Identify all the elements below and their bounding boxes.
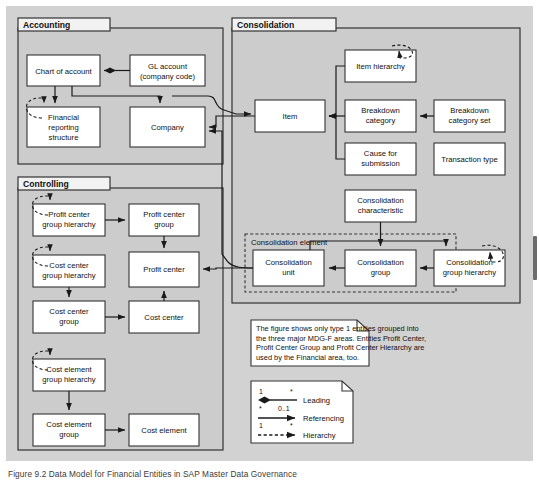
entity-item-label: Item (283, 112, 298, 121)
entity-cost-element-group: Cost element group (33, 414, 105, 446)
entity-consolidation-group-hierarchy: Consolidation group hierarchy (434, 250, 505, 286)
entity-cch-line2: characteristic (358, 206, 403, 215)
entity-ceg-line2: group (59, 430, 79, 439)
entity-profit-center-group: Profit center group (129, 204, 199, 236)
legend-referencing-label: Referencing (303, 414, 344, 423)
entity-bdc-line2: category (366, 116, 396, 125)
group-accounting-label: Accounting (23, 20, 70, 30)
entity-pcg-line2: group (154, 220, 174, 229)
entity-gl-account: GL account (company code) (130, 55, 205, 86)
entity-frs-label-line3: structure (49, 133, 79, 142)
entity-transaction-type: Transaction type (434, 143, 505, 175)
figure-caption: Figure 9.2 Data Model for Financial Enti… (8, 469, 438, 479)
entity-cfs-line1: Cause for (364, 149, 398, 158)
entity-cost-element: Cost element (129, 414, 199, 446)
entity-profit-center-group-hierarchy: Profit center group hierarchy (33, 204, 105, 236)
note-line-2: the three major MDG-F areas. Entities Pr… (256, 334, 426, 343)
entity-cg-line1: Consolidation (357, 258, 404, 267)
entity-ce-line1: Cost element (141, 426, 187, 435)
figure-canvas: Accounting Chart of account GL account (… (0, 0, 539, 480)
group-consolidation-label: Consolidation (237, 20, 294, 30)
entity-bdcs-line1: Breakdown (450, 106, 488, 115)
legend-referencing-left-cardinality: * (259, 405, 262, 412)
entity-bdc-line1: Breakdown (361, 106, 399, 115)
legend-hierarchy-right-cardinality: * (290, 422, 293, 429)
entity-breakdown-category-set: Breakdown category set (434, 100, 505, 132)
legend-leading-label: Leading (303, 396, 330, 405)
entity-cc-line1: Cost center (144, 313, 184, 322)
legend-leading-left-cardinality: 1 (259, 388, 263, 395)
legend-leading-right-cardinality: * (290, 388, 293, 395)
entity-cegh-line1: Cost element (46, 365, 92, 374)
note-line-3: Profit Center Group and Profit Center Hi… (256, 343, 424, 352)
entity-profit-center: Profit center (129, 252, 199, 287)
entity-consolidation-group: Consolidation group (345, 250, 416, 286)
entity-pc-line1: Profit center (143, 265, 185, 274)
entity-ccg-line1: Cost center (49, 307, 89, 316)
legend-hierarchy-left-cardinality: 1 (259, 422, 263, 429)
entity-item-hierarchy-label: Item hierarchy (356, 62, 405, 71)
subgroup-consolidation-element-label: Consolidation element (251, 238, 328, 247)
entity-bdcs-line2: category set (449, 116, 492, 125)
entity-cfs-line2: submission (361, 159, 399, 168)
entity-chart-of-account: Chart of account (27, 55, 100, 86)
note-line-4: used by the Financial area, too. (256, 353, 359, 362)
entity-pcgh-line2: group hierarchy (42, 220, 96, 229)
entity-cg-line2: group (371, 268, 391, 277)
legend-box: 1 * Leading * 0..1 Referencing 1 * Hiera… (251, 381, 353, 443)
entity-cause-for-submission: Cause for submission (345, 143, 416, 175)
entity-cost-center-group-hierarchy: Cost center group hierarchy (33, 255, 105, 287)
entity-cegh-line2: group hierarchy (42, 375, 96, 384)
entity-frs-label-line1: Financial (48, 113, 79, 122)
group-controlling-label: Controlling (23, 179, 69, 189)
entity-ccg-line2: group (59, 317, 79, 326)
entity-ceg-line1: Cost element (46, 420, 92, 429)
note-line-1: The figure shows only type 1 entities gr… (256, 324, 419, 333)
entity-pcg-line1: Profit center (143, 210, 185, 219)
entity-frs-label-line2: reporting (48, 123, 78, 132)
entity-cgh-line1: Consolidation (446, 258, 493, 267)
entity-pcgh-line1: Profit center (48, 210, 90, 219)
entity-cgh-line2: group hierarchy (443, 268, 497, 277)
entity-consolidation-characteristic: Consolidation characteristic (345, 190, 416, 222)
entity-cu-line1: Consolidation (265, 258, 312, 267)
entity-cu-line2: unit (282, 268, 295, 277)
entity-financial-reporting-structure: Financial reporting structure (27, 107, 100, 147)
entity-company-label: Company (151, 123, 184, 132)
entity-ccgh-line1: Cost center (49, 261, 89, 270)
entity-cost-element-group-hierarchy: Cost element group hierarchy (33, 359, 105, 391)
entity-cch-line1: Consolidation (357, 196, 404, 205)
entity-company: Company (130, 107, 205, 147)
entity-item: Item (255, 100, 325, 132)
legend-hierarchy-label: Hierarchy (303, 431, 336, 440)
entity-cost-center: Cost center (129, 301, 199, 333)
entity-gl-account-label-line1: GL account (148, 62, 188, 71)
entity-relationship-diagram: Accounting Chart of account GL account (… (0, 0, 539, 480)
entity-chart-of-account-label: Chart of account (35, 67, 92, 76)
entity-gl-account-label-line2: (company code) (140, 72, 196, 81)
scrollbar-thumb[interactable] (533, 236, 537, 280)
entity-ccgh-line2: group hierarchy (42, 271, 96, 280)
legend-referencing-right-cardinality: 0..1 (278, 405, 290, 412)
entity-tt-line1: Transaction type (441, 155, 498, 164)
entity-item-hierarchy: Item hierarchy (345, 50, 416, 82)
entity-breakdown-category: Breakdown category (345, 100, 416, 132)
entity-cost-center-group: Cost center group (33, 301, 105, 333)
entity-consolidation-unit: Consolidation unit (253, 250, 324, 286)
